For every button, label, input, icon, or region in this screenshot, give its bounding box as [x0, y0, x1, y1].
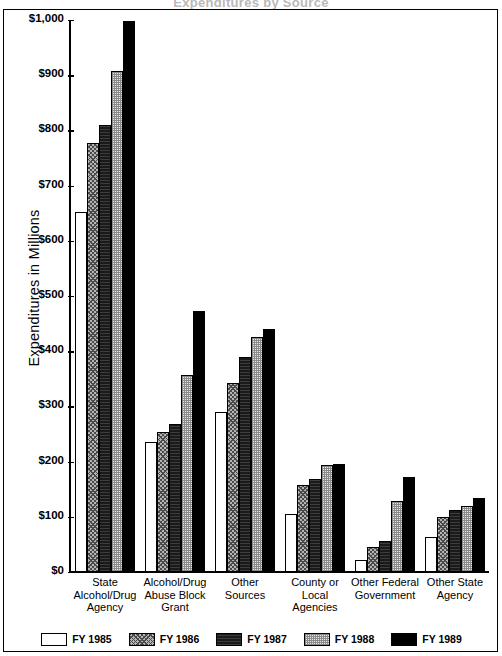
bar[interactable]	[355, 560, 367, 572]
chart-frame: Expenditures in Millions $1,000$900$800$…	[3, 9, 498, 652]
bar[interactable]	[251, 337, 263, 572]
legend-swatch-dark-hatch	[216, 633, 242, 646]
chart-legend: FY 1985FY 1986FY 1987FY 1988FY 1989	[4, 628, 499, 650]
y-axis-tick: $600	[4, 241, 74, 242]
bar[interactable]	[473, 498, 485, 572]
legend-swatch-gray-hatch	[129, 633, 155, 646]
bar-group	[350, 20, 420, 572]
bar[interactable]	[285, 514, 297, 573]
y-axis-tick-label: $800	[38, 122, 64, 134]
bar[interactable]	[145, 442, 157, 572]
y-axis-tick: $200	[4, 462, 74, 463]
bar[interactable]	[263, 329, 275, 572]
legend-item[interactable]: FY 1986	[129, 633, 200, 646]
x-axis-category-label: County orLocalAgencies	[280, 576, 350, 624]
bar[interactable]	[111, 71, 123, 572]
y-axis: $1,000$900$800$700$600$500$400$300$200$1…	[4, 10, 74, 653]
bar[interactable]	[309, 479, 321, 572]
legend-label: FY 1987	[247, 633, 287, 645]
bar[interactable]	[169, 424, 181, 572]
bar-group	[140, 20, 210, 572]
bar[interactable]	[239, 357, 251, 572]
bar-group	[420, 20, 490, 572]
bar[interactable]	[297, 485, 309, 572]
y-axis-tick: $500	[4, 296, 74, 297]
y-axis-tick-label: $400	[38, 343, 64, 355]
bar[interactable]	[99, 125, 111, 572]
bar-group	[70, 20, 140, 572]
bar[interactable]	[123, 21, 135, 572]
legend-item[interactable]: FY 1988	[304, 633, 375, 646]
x-axis-category-label: Alcohol/DrugAbuse BlockGrant	[140, 576, 210, 624]
bar-groups	[70, 20, 490, 572]
bar[interactable]	[461, 506, 473, 572]
y-axis-tick: $800	[4, 130, 74, 131]
legend-label: FY 1985	[72, 633, 112, 645]
bar[interactable]	[391, 501, 403, 572]
bar[interactable]	[157, 432, 169, 572]
x-axis-category-label: StateAlcohol/DrugAgency	[70, 576, 140, 624]
y-axis-tick-label: $200	[38, 454, 64, 466]
legend-swatch-solid-black	[391, 633, 417, 646]
y-axis-tick-label: $300	[38, 398, 64, 410]
x-axis-labels: StateAlcohol/DrugAgencyAlcohol/DrugAbuse…	[70, 576, 490, 624]
legend-label: FY 1988	[335, 633, 375, 645]
scan-cut-off-header-text: Expenditures by Source	[0, 0, 502, 9]
bar[interactable]	[437, 517, 449, 572]
bar[interactable]	[379, 541, 391, 572]
y-axis-tick: $1,000	[4, 20, 74, 21]
y-axis-tick: $100	[4, 517, 74, 518]
x-axis-category-label: Other StateAgency	[420, 576, 490, 624]
legend-label: FY 1989	[422, 633, 462, 645]
y-axis-tick: $900	[4, 75, 74, 76]
y-axis-tick-label: $900	[38, 67, 64, 79]
y-axis-tick-label: $1,000	[29, 12, 64, 24]
bar-group	[210, 20, 280, 572]
scan-cut-off-header: Expenditures by Source	[0, 0, 502, 9]
bar[interactable]	[425, 537, 437, 572]
bar[interactable]	[215, 412, 227, 572]
bar[interactable]	[403, 477, 415, 572]
bar[interactable]	[181, 375, 193, 572]
bar[interactable]	[367, 547, 379, 572]
y-axis-tick-label: $600	[38, 233, 64, 245]
x-axis-category-label: OtherSources	[210, 576, 280, 624]
y-axis-tick: $0	[4, 572, 74, 573]
legend-label: FY 1986	[160, 633, 200, 645]
bar[interactable]	[87, 143, 99, 572]
bar[interactable]	[333, 464, 345, 572]
bar[interactable]	[193, 311, 205, 572]
legend-item[interactable]: FY 1985	[41, 633, 112, 646]
legend-swatch-light-check	[304, 633, 330, 646]
legend-item[interactable]: FY 1987	[216, 633, 287, 646]
x-axis-category-label: Other FederalGovernment	[350, 576, 420, 624]
bar[interactable]	[449, 510, 461, 572]
bar[interactable]	[227, 383, 239, 572]
y-axis-tick: $300	[4, 406, 74, 407]
y-axis-tick: $700	[4, 186, 74, 187]
y-axis-tick-label: $0	[51, 564, 64, 576]
bar[interactable]	[75, 212, 87, 572]
legend-swatch-white	[41, 633, 67, 646]
y-axis-tick-label: $500	[38, 288, 64, 300]
y-axis-tick-label: $100	[38, 509, 64, 521]
y-axis-tick-label: $700	[38, 178, 64, 190]
bar[interactable]	[321, 465, 333, 572]
plot-area: Expenditures in Millions $1,000$900$800$…	[4, 10, 499, 653]
legend-item[interactable]: FY 1989	[391, 633, 462, 646]
y-axis-tick: $400	[4, 351, 74, 352]
bar-group	[280, 20, 350, 572]
